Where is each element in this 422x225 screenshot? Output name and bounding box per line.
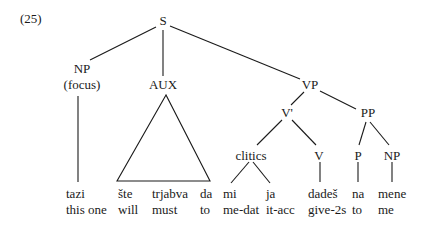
- word-form: da: [200, 187, 212, 201]
- word-form: mi: [223, 187, 237, 201]
- branch-vbar-clitics: [257, 120, 282, 145]
- word-form: na: [352, 187, 364, 201]
- word-form: dadeš: [308, 187, 338, 201]
- word-gloss: to: [352, 203, 362, 217]
- node-np-focus-sublabel: (focus): [64, 78, 101, 92]
- node-np: NP: [384, 149, 401, 163]
- word-form: ja: [266, 187, 275, 201]
- branch-pp-np: [370, 122, 389, 145]
- node-clitics: clitics: [235, 149, 266, 163]
- branch-s-np: [90, 27, 156, 60]
- branch-vbar-v: [292, 120, 316, 145]
- aux-triangle: [117, 95, 210, 181]
- node-v-bar: V': [281, 106, 293, 120]
- word-gloss: to: [200, 203, 210, 217]
- node-v: V: [314, 149, 323, 163]
- example-number: (25): [20, 12, 42, 26]
- word-gloss: give-2s: [308, 203, 346, 217]
- node-s: S: [159, 14, 166, 28]
- word-gloss: me-dat: [223, 203, 259, 217]
- node-aux: AUX: [149, 78, 177, 92]
- word-gloss: this one: [66, 203, 107, 217]
- word-form: trjabva: [152, 187, 188, 201]
- word-form: šte: [118, 187, 132, 201]
- word-gloss: will: [118, 203, 138, 217]
- word-gloss: it-acc: [266, 203, 295, 217]
- branch-pp-p: [359, 122, 366, 145]
- branch-clitics-ja: [253, 162, 270, 183]
- word-gloss: me: [378, 203, 394, 217]
- branch-s-vp: [170, 26, 300, 79]
- node-pp: PP: [361, 106, 375, 120]
- word-form: mene: [378, 187, 406, 201]
- branch-clitics-mi: [231, 162, 249, 183]
- word-form: tazi: [66, 187, 85, 201]
- node-np-focus: NP: [74, 62, 91, 76]
- branch-vp-pp: [320, 91, 356, 109]
- word-gloss: must: [152, 203, 177, 217]
- node-p: P: [354, 149, 361, 163]
- branch-vp-vbar: [291, 92, 304, 105]
- node-vp: VP: [302, 78, 319, 92]
